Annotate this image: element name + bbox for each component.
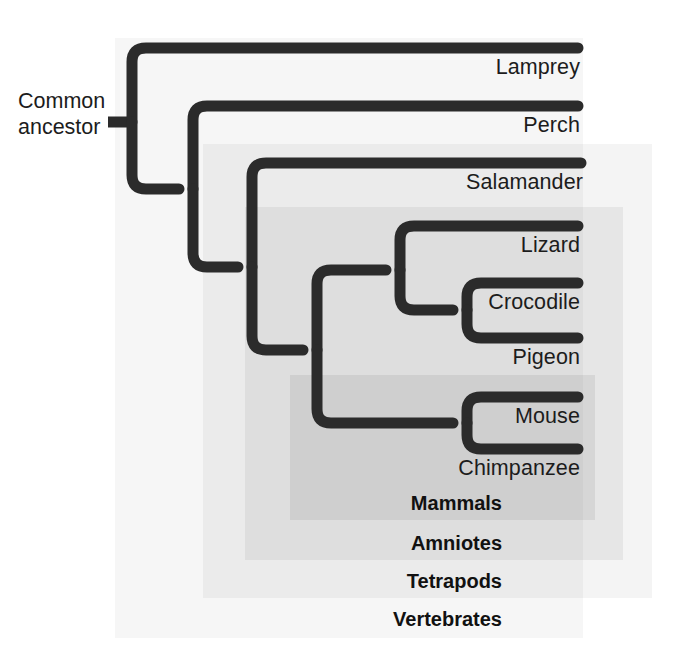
branch-to-node-amniotes [252, 267, 303, 350]
branch-to-node-archosaurs [400, 270, 453, 310]
group-label-tetrapods: Tetrapods [407, 570, 502, 593]
group-label-vertebrates: Vertebrates [393, 608, 502, 631]
branch-root-to-node-perch [132, 122, 179, 189]
tip-label-pigeon: Pigeon [512, 345, 580, 370]
tip-label-salamander: Salamander [466, 170, 583, 195]
tip-label-chimpanzee: Chimpanzee [458, 456, 580, 481]
tip-label-lamprey: Lamprey [496, 55, 580, 80]
group-label-mammals: Mammals [411, 492, 502, 515]
tip-label-mouse: Mouse [515, 404, 580, 429]
group-label-amniotes: Amniotes [411, 532, 502, 555]
branch-to-node-mammals [317, 350, 453, 423]
tip-label-perch: Perch [523, 113, 580, 138]
tip-label-crocodile: Crocodile [488, 290, 580, 315]
tip-label-lizard: Lizard [521, 233, 580, 258]
cladogram-figure: Common ancestor Lamprey Perch Salamander… [0, 0, 687, 654]
branch-to-node-reptiles [317, 270, 386, 350]
root-label: Common ancestor [18, 88, 118, 140]
branch-to-node-tetrapods [193, 189, 238, 267]
